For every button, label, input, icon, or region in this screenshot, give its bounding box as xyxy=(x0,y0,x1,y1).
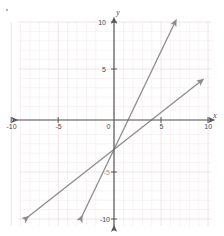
graph-svg: x y -10 -5 5 10 0 10 5 -5 -10 xyxy=(0,0,224,236)
x-tick-label-pos-five: 5 xyxy=(159,123,163,130)
corner-marker-dot xyxy=(6,9,8,11)
x-tick-label-pos-ten: 10 xyxy=(204,123,212,130)
graph-background xyxy=(0,0,224,236)
coordinate-plane-graph: x y -10 -5 5 10 0 10 5 -5 -10 xyxy=(0,0,224,236)
x-tick-label-neg-five: -5 xyxy=(55,123,61,130)
y-tick-label-neg-ten: -10 xyxy=(100,216,110,223)
x-axis-name: x xyxy=(212,111,217,120)
x-tick-label-neg-ten: -10 xyxy=(7,123,17,130)
y-tick-label-pos-five: 5 xyxy=(102,66,106,73)
y-tick-label-neg-five: -5 xyxy=(104,169,110,176)
y-tick-label-pos-ten: 10 xyxy=(98,19,106,26)
y-axis-name: y xyxy=(115,8,120,17)
origin-label: 0 xyxy=(107,123,111,130)
